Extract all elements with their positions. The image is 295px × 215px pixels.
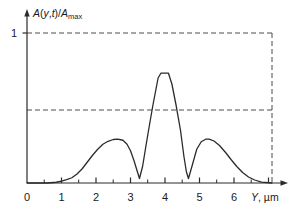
y-axis-title: A(y,t)/Amax [33,8,82,19]
chart-figure: 1 0 1 2 3 4 5 6 A(y,t)/Amax Y, µm [0,0,295,215]
x-tick-label-1: 1 [56,192,68,203]
y-tick-label-1: 1 [8,28,20,39]
plot-area [0,0,295,215]
y-axis-title-a1: A [33,7,40,19]
y-axis-arrowhead [24,9,29,17]
x-tick-label-3: 3 [125,192,137,203]
x-axis-title-unit: µm [264,191,279,203]
y-axis-title-a2: A [61,7,68,19]
y-axis-title-subscript: max [68,12,82,21]
x-axis-arrowhead [281,180,289,185]
x-tick-label-6: 6 [228,192,240,203]
x-axis-title-variable: Y [251,191,258,203]
x-tick-label-2: 2 [90,192,102,203]
x-tick-label-5: 5 [194,192,206,203]
x-ticks [62,178,269,184]
x-tick-label-4: 4 [159,192,171,203]
x-tick-label-0: 0 [21,192,33,203]
data-series-curve [27,73,272,183]
x-axis-title: Y, µm [251,192,279,203]
